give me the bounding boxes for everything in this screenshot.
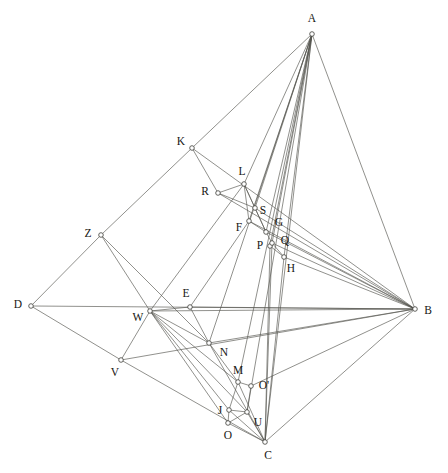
- vertex-label-Op: O': [259, 379, 269, 391]
- vertex-label-W: W: [133, 311, 144, 323]
- vertex-Op: [249, 384, 254, 389]
- vertex-label-F: F: [236, 221, 242, 233]
- vertex-label-O: O: [224, 429, 232, 441]
- vertex-label-Z: Z: [84, 227, 91, 239]
- segment-N-B: [209, 309, 415, 343]
- vertex-label-V: V: [111, 366, 120, 378]
- vertex-label-A: A: [308, 12, 317, 24]
- geometric-figure: ABCDEFGHJKLMNOO'PQRSUVWZ: [0, 0, 448, 473]
- vertex-label-B: B: [424, 304, 432, 316]
- vertex-label-P: P: [257, 239, 263, 251]
- vertex-label-L: L: [238, 165, 245, 177]
- vertex-Q: [270, 241, 275, 246]
- segment-Op-U: [247, 386, 251, 412]
- vertex-M: [236, 380, 241, 385]
- vertex-L: [242, 182, 247, 187]
- vertex-label-D: D: [14, 298, 22, 310]
- segment-A-G: [266, 34, 312, 232]
- vertex-W: [148, 309, 153, 314]
- vertex-label-R: R: [201, 185, 209, 197]
- vertex-label-U: U: [254, 416, 263, 428]
- segment-A-B: [312, 34, 415, 309]
- segment-P-C: [265, 246, 270, 442]
- vertex-Z: [99, 233, 104, 238]
- segment-K-B: [192, 148, 415, 309]
- vertex-label-H: H: [287, 262, 295, 274]
- vertex-C: [263, 440, 268, 445]
- vertex-label-C: C: [264, 449, 272, 461]
- vertex-G: [264, 230, 269, 235]
- segment-D-V: [31, 306, 121, 360]
- vertex-A: [310, 32, 315, 37]
- vertex-label-N: N: [220, 346, 229, 358]
- segment-W-U: [150, 311, 247, 412]
- segment-A-K: [192, 34, 312, 148]
- segment-O-U: [228, 412, 247, 423]
- segment-C-B: [265, 309, 415, 442]
- vertex-label-Q: Q: [281, 234, 290, 246]
- segment-M-C: [238, 382, 265, 442]
- vertex-B: [413, 307, 418, 312]
- vertex-label-M: M: [233, 364, 243, 376]
- vertex-U: [245, 410, 250, 415]
- segment-L-W: [150, 184, 244, 311]
- vertex-R: [216, 191, 221, 196]
- vertex-H: [282, 255, 287, 260]
- segment-A-L: [244, 34, 312, 184]
- vertex-label-G: G: [275, 216, 283, 228]
- vertex-N: [207, 341, 212, 346]
- diagram-canvas: ABCDEFGHJKLMNOO'PQRSUVWZ: [0, 0, 448, 473]
- vertex-S: [253, 206, 258, 211]
- segment-W-N: [150, 311, 209, 343]
- segment-H-B: [284, 257, 415, 309]
- vertex-D: [29, 304, 34, 309]
- segment-W-O: [150, 311, 228, 423]
- segment-D-Z: [31, 235, 101, 306]
- segment-Z-W: [101, 235, 150, 311]
- vertex-label-K: K: [177, 135, 186, 147]
- segment-Z-N: [101, 235, 209, 343]
- segment-C-H: [265, 257, 284, 442]
- vertex-label-J: J: [218, 404, 223, 416]
- vertex-label-S: S: [260, 204, 266, 216]
- segment-W-J: [150, 311, 229, 410]
- segment-J-U: [229, 410, 247, 412]
- vertex-V: [119, 358, 124, 363]
- segment-A-N: [209, 34, 312, 343]
- vertex-F: [247, 219, 252, 224]
- segment-E-W: [150, 307, 190, 311]
- vertex-J: [227, 408, 232, 413]
- segment-Z-K: [101, 148, 192, 235]
- label-layer: ABCDEFGHJKLMNOO'PQRSUVWZ: [14, 12, 432, 461]
- vertex-O: [226, 421, 231, 426]
- segment-R-L: [218, 184, 244, 193]
- segment-Q-B: [272, 243, 415, 309]
- vertex-K: [190, 146, 195, 151]
- segment-E-B: [190, 307, 415, 309]
- vertex-label-E: E: [182, 287, 189, 299]
- segment-F-E: [190, 221, 249, 307]
- vertex-E: [188, 305, 193, 310]
